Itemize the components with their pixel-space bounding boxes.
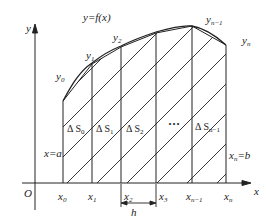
right-bound-label: xn=b (229, 150, 250, 163)
area-s0-label: Δ S0 (67, 124, 84, 136)
origin-label: O (24, 188, 32, 199)
curve-label: y=f(x) (83, 12, 111, 23)
y2-label: y2 (113, 32, 121, 45)
y1-label: y1 (86, 50, 94, 63)
x2-label: x2 (124, 191, 132, 204)
step-h-label: h (131, 207, 137, 218)
yn-1-label: yn−1 (206, 14, 223, 27)
y0-label: y0 (56, 71, 64, 84)
y-axis-label: y (26, 23, 31, 34)
x-axis-label: x (254, 186, 259, 197)
y-axis-arrow-icon (33, 24, 38, 33)
area-s1-label: Δ S1 (96, 124, 113, 136)
ellipsis: ··· (168, 118, 180, 130)
area-sn-1-label: Δ Sn−1 (195, 122, 220, 134)
left-bound-label: x=a (44, 148, 62, 159)
area-s2-label: Δ S2 (126, 124, 143, 136)
x1-label: x1 (88, 191, 96, 204)
x-axis-arrow-icon (242, 181, 251, 186)
trapezoid-rule-diagram: y=f(x) y x O y0 y1 y2 yn−1 yn x0 x1 x2 x… (0, 0, 266, 223)
x3-label: x3 (159, 191, 167, 204)
x0-label: x0 (58, 191, 66, 204)
xn-label: xn (224, 191, 232, 204)
trapezoid-tops (63, 26, 226, 101)
yn-label: yn (242, 35, 250, 48)
xn-1-label: xn−1 (186, 191, 203, 204)
axes (22, 24, 251, 210)
